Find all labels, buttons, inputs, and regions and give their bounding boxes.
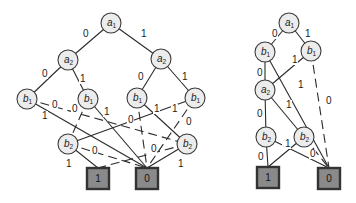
node-subscript: 1 bbox=[139, 97, 143, 104]
node-b1: b1 bbox=[127, 88, 147, 108]
terminal-1: 1 bbox=[257, 167, 279, 188]
edge-label: 1 bbox=[80, 73, 86, 84]
edge-label: 0 bbox=[257, 67, 263, 78]
node-b2: b2 bbox=[58, 134, 78, 154]
node-subscript: 2 bbox=[70, 59, 74, 66]
terminal-label: 0 bbox=[144, 173, 150, 184]
edges bbox=[27, 23, 195, 168]
terminal-0: 0 bbox=[136, 168, 158, 189]
bdd-figure: 10a1a2a2b1b1b1b1b2b2010101010101101001 1… bbox=[0, 0, 356, 203]
edge-label: 1 bbox=[305, 28, 311, 39]
edge-b2L-T0-dashed bbox=[68, 144, 147, 168]
edge-label: 1 bbox=[104, 106, 110, 117]
edge-label: 0 bbox=[310, 148, 316, 159]
node-b2: b2 bbox=[177, 134, 197, 154]
edge-label: 0 bbox=[257, 108, 263, 119]
edge-label: 1 bbox=[292, 54, 298, 65]
edge-label: 1 bbox=[66, 158, 72, 169]
node-a2: a2 bbox=[151, 49, 171, 69]
edge-label: 1 bbox=[172, 103, 178, 114]
edge-label: 1 bbox=[178, 158, 184, 169]
edge-label: 1 bbox=[298, 79, 304, 90]
edge-label: 0 bbox=[186, 116, 192, 127]
node-subscript: 1 bbox=[29, 98, 33, 105]
right-bdd-reduced: 10a1b1b1a2b2b2010110010110 bbox=[255, 13, 340, 189]
edge-label: 0 bbox=[151, 143, 157, 154]
edge-label: 1 bbox=[286, 99, 292, 110]
diagram-svg: 10a1a2a2b1b1b1b1b2b2010101010101101001 1… bbox=[0, 0, 356, 203]
node-subscript: 2 bbox=[306, 136, 310, 143]
node-b1: b1 bbox=[78, 89, 98, 109]
terminal-label: 0 bbox=[326, 173, 332, 184]
node-subscript: 2 bbox=[189, 143, 193, 150]
edge-b1L-T0-solid bbox=[265, 52, 329, 168]
node-subscript: 1 bbox=[291, 22, 295, 29]
terminal-label: 1 bbox=[95, 173, 101, 184]
node-b2: b2 bbox=[294, 127, 314, 147]
node-subscript: 1 bbox=[197, 97, 201, 104]
node-b1: b1 bbox=[301, 41, 321, 61]
edge-label: 0 bbox=[42, 68, 48, 79]
node-b1: b1 bbox=[255, 42, 275, 62]
node-subscript: 1 bbox=[267, 51, 271, 58]
edge-label: 1 bbox=[154, 103, 160, 114]
edge-label: 0 bbox=[128, 114, 134, 125]
node-subscript: 1 bbox=[113, 22, 117, 29]
edge-label: 0 bbox=[258, 151, 264, 162]
node-subscript: 2 bbox=[267, 89, 271, 96]
node-a1: a1 bbox=[101, 13, 121, 33]
node-a2: a2 bbox=[255, 80, 275, 100]
node-b1: b1 bbox=[185, 88, 205, 108]
node-b2: b2 bbox=[256, 127, 276, 147]
edge-label: 0 bbox=[83, 28, 89, 39]
node-subscript: 2 bbox=[268, 136, 272, 143]
edge-label: 0 bbox=[138, 71, 144, 82]
edge-label: 1 bbox=[182, 71, 188, 82]
node-a2: a2 bbox=[58, 50, 78, 70]
node-b1: b1 bbox=[17, 89, 37, 109]
node-subscript: 1 bbox=[313, 50, 317, 57]
edge-label: 0 bbox=[52, 99, 58, 110]
edge-label: 1 bbox=[141, 28, 147, 39]
node-subscript: 2 bbox=[70, 143, 74, 150]
node-a1: a1 bbox=[279, 13, 299, 33]
edge-label: 0 bbox=[72, 103, 78, 114]
terminal-1: 1 bbox=[87, 168, 109, 189]
edge-label: 0 bbox=[92, 145, 98, 156]
edge-label: 0 bbox=[326, 95, 332, 106]
edge-label: 1 bbox=[42, 110, 48, 121]
node-subscript: 1 bbox=[90, 98, 94, 105]
terminal-0: 0 bbox=[318, 168, 340, 189]
edge-label: 1 bbox=[285, 138, 291, 149]
edge-label: 0 bbox=[272, 28, 278, 39]
terminal-label: 1 bbox=[265, 172, 271, 183]
left-bdd: 10a1a2a2b1b1b1b1b2b2010101010101101001 bbox=[17, 13, 205, 189]
node-subscript: 2 bbox=[163, 58, 167, 65]
